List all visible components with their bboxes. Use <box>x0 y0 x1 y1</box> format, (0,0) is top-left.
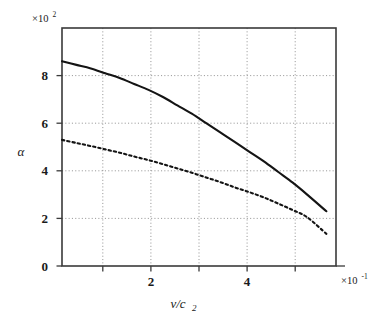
figure-container: 0 2 4 6 8 2 4 ×10 2 ×10 -1 α v/c 2 <box>0 0 381 319</box>
y-tick-label-4: 4 <box>42 163 49 178</box>
x-axis-title: v/c 2 <box>170 296 197 313</box>
x-axis-multiplier: ×10 -1 <box>341 272 368 287</box>
y-tick-label-8: 8 <box>42 68 49 83</box>
y-multiplier-exponent: 2 <box>53 10 57 19</box>
y-tick-label-2: 2 <box>42 211 49 226</box>
y-tick-labels: 0 2 4 6 8 <box>42 68 49 273</box>
x-multiplier-base: ×10 <box>341 275 357 286</box>
y-axis-ticks <box>57 76 63 266</box>
x-axis-title-subscript: 2 <box>192 303 197 313</box>
y-axis-multiplier: ×10 2 <box>32 10 57 25</box>
x-axis-title-base: v/c <box>170 296 185 311</box>
x-tick-labels: 2 4 <box>148 274 251 289</box>
x-tick-label-4: 4 <box>244 274 251 289</box>
y-multiplier-base: ×10 <box>32 13 48 24</box>
x-tick-label-2: 2 <box>148 274 155 289</box>
x-multiplier-exponent: -1 <box>362 272 368 281</box>
x-axis-ticks <box>103 266 295 272</box>
y-axis-title: α <box>18 144 26 159</box>
chart-svg: 0 2 4 6 8 2 4 ×10 2 ×10 -1 α v/c 2 <box>0 0 381 319</box>
y-tick-label-6: 6 <box>42 116 49 131</box>
y-tick-label-0: 0 <box>42 259 49 274</box>
